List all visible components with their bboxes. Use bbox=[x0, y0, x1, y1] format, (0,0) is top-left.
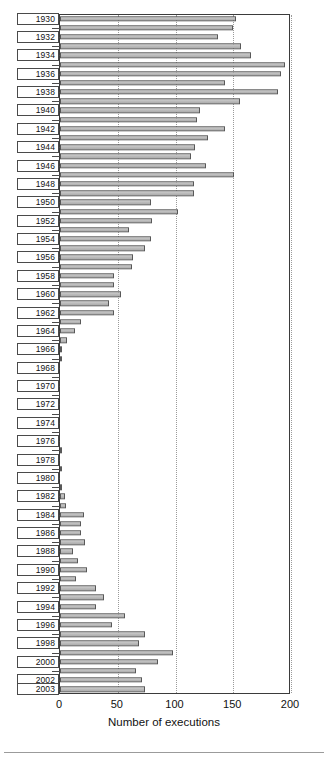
x-tick-label-50: 50 bbox=[111, 698, 123, 710]
bar-1963 bbox=[60, 319, 81, 324]
bar-1944 bbox=[60, 145, 195, 150]
bar-1939 bbox=[60, 99, 240, 104]
bar-1992 bbox=[60, 586, 96, 591]
bar-1946 bbox=[60, 163, 206, 168]
bar-1979 bbox=[60, 466, 62, 471]
bar-1981 bbox=[60, 484, 62, 489]
bar-1930 bbox=[60, 16, 236, 21]
bar-1956 bbox=[60, 255, 133, 260]
x-tick-label-100: 100 bbox=[165, 698, 183, 710]
x-tick-label-0: 0 bbox=[56, 698, 62, 710]
bar-2002 bbox=[60, 677, 142, 682]
bar-1961 bbox=[60, 301, 109, 306]
x-axis-title: Number of executions bbox=[0, 716, 328, 728]
bar-1932 bbox=[60, 34, 218, 39]
bar-1955 bbox=[60, 246, 145, 251]
bar-1966 bbox=[60, 347, 62, 352]
bar-1943 bbox=[60, 135, 208, 140]
bar-1996 bbox=[60, 622, 112, 627]
bar-1957 bbox=[60, 264, 132, 269]
bar-1960 bbox=[60, 292, 121, 297]
bar-1942 bbox=[60, 126, 225, 131]
bar-1962 bbox=[60, 310, 114, 315]
y-axis-label-2003: 2003 bbox=[17, 683, 59, 695]
bar-1931 bbox=[60, 25, 233, 30]
bar-1983 bbox=[60, 503, 66, 508]
bar-1953 bbox=[60, 227, 129, 232]
bar-1991 bbox=[60, 576, 76, 581]
bar-1999 bbox=[60, 650, 173, 655]
footer-divider bbox=[4, 752, 324, 753]
bar-row: 2003 bbox=[0, 685, 328, 694]
bar-1967 bbox=[60, 356, 62, 361]
bar-1954 bbox=[60, 236, 151, 241]
bar-2003 bbox=[60, 687, 145, 692]
bar-1959 bbox=[60, 282, 114, 287]
bar-1936 bbox=[60, 71, 281, 76]
bar-1989 bbox=[60, 558, 78, 563]
bar-1934 bbox=[60, 53, 251, 58]
bar-1940 bbox=[60, 108, 200, 113]
bar-1997 bbox=[60, 631, 145, 636]
bar-1965 bbox=[60, 337, 67, 342]
x-tick-label-150: 150 bbox=[223, 698, 241, 710]
bar-1958 bbox=[60, 273, 114, 278]
bar-1998 bbox=[60, 641, 139, 646]
bar-1952 bbox=[60, 218, 152, 223]
bars-container: 1930193219341936193819401942194419461948… bbox=[0, 14, 328, 694]
bar-1984 bbox=[60, 512, 84, 517]
bar-1993 bbox=[60, 595, 104, 600]
bar-1948 bbox=[60, 181, 194, 186]
bar-1938 bbox=[60, 89, 278, 94]
x-tick-label-200: 200 bbox=[281, 698, 299, 710]
bar-1937 bbox=[60, 80, 225, 85]
bar-1950 bbox=[60, 200, 151, 205]
bar-1988 bbox=[60, 549, 73, 554]
chart-page: 1930193219341936193819401942194419461948… bbox=[0, 0, 328, 765]
bar-1987 bbox=[60, 540, 85, 545]
bar-1982 bbox=[60, 494, 65, 499]
bar-1933 bbox=[60, 43, 241, 48]
bar-1994 bbox=[60, 604, 96, 609]
bar-1945 bbox=[60, 154, 191, 159]
bar-1951 bbox=[60, 209, 178, 214]
bar-1986 bbox=[60, 530, 81, 535]
bar-1935 bbox=[60, 62, 285, 67]
bar-2000 bbox=[60, 659, 158, 664]
bar-1941 bbox=[60, 117, 197, 122]
bar-1964 bbox=[60, 328, 75, 333]
bar-1990 bbox=[60, 567, 87, 572]
x-axis-ticks: 050100150200 bbox=[0, 694, 328, 734]
bar-1977 bbox=[60, 448, 62, 453]
bar-1985 bbox=[60, 521, 81, 526]
bar-1995 bbox=[60, 613, 125, 618]
bar-1949 bbox=[60, 190, 194, 195]
bar-2001 bbox=[60, 668, 136, 673]
bar-1947 bbox=[60, 172, 234, 177]
